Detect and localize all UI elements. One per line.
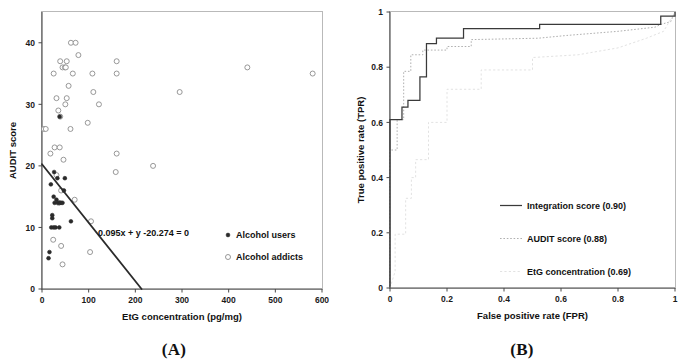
scatter-point-addict (64, 96, 69, 101)
scatter-point-addict (51, 237, 56, 242)
scatter-point-addict (113, 170, 118, 175)
scatter-point-user (57, 226, 61, 230)
scatter-point-user (56, 176, 60, 180)
scatter-point-addict (54, 96, 59, 101)
legend-marker-alcohol-users (226, 233, 230, 237)
scatter-point-addict (151, 163, 156, 168)
scatter-point-user (61, 201, 65, 205)
scatter-plot-audit-vs-etg: 0100200300400500600010203040 0.095x + y … (0, 0, 348, 330)
axis-lines (390, 12, 675, 288)
y-tick-label: 20 (26, 161, 36, 171)
legend-label: EtG concentration (0.69) (527, 267, 631, 277)
roc-curve-audit-score (390, 12, 675, 288)
panel-b: 00.20.40.60.8100.20.40.60.81 Integration… (348, 0, 696, 364)
x-tick-label: 0 (40, 295, 45, 305)
scatter-point-addict (60, 262, 65, 267)
scatter-point-addict (310, 71, 315, 76)
x-tick-label: 0.2 (441, 294, 453, 304)
scatter-point-addict (43, 126, 48, 131)
scatter-point-user (58, 115, 62, 119)
x-tick-label: 0.8 (612, 294, 624, 304)
scatter-point-addict (52, 145, 57, 150)
scatter-point-addict (58, 59, 63, 64)
scatter-point-addict (66, 83, 71, 88)
scatter-point-user (52, 195, 56, 199)
x-tick-label: 200 (128, 295, 142, 305)
roc-curve-plot: 00.20.40.60.8100.20.40.60.81 Integration… (348, 0, 696, 330)
scatter-point-user (50, 216, 54, 220)
x-axis-title: EtG concentration (pg/mg) (122, 311, 242, 322)
scatter-point-user (53, 201, 57, 205)
scatter-point-addict (63, 65, 68, 70)
panel-a-caption: (A) (0, 340, 348, 360)
x-tick-label: 0 (388, 294, 393, 304)
scatter-point-user (49, 182, 53, 186)
x-tick-label: 0.4 (498, 294, 510, 304)
scatter-point-addict (114, 59, 119, 64)
scatter-point-user (69, 219, 73, 223)
scatter-point-addict (68, 126, 73, 131)
legend-label: Alcohol users (236, 230, 296, 240)
x-axis-title: False positive rate (FPR) (477, 310, 588, 321)
roc-curve-etg-concentration (390, 12, 675, 288)
scatter-point-addict (90, 71, 95, 76)
y-tick-label: 40 (26, 38, 36, 48)
scatter-point-addict (96, 102, 101, 107)
tick-label-group: 00.20.40.60.8100.20.40.60.81 (371, 7, 677, 304)
x-tick-label: 400 (222, 295, 236, 305)
legend-marker-alcohol-addicts (226, 255, 231, 260)
roc-curves-group (390, 12, 675, 288)
scatter-point-addict (51, 71, 56, 76)
scatter-point-addict (70, 71, 75, 76)
scatter-point-addict (63, 102, 68, 107)
panel-b-caption: (B) (348, 340, 696, 360)
legend-panel-b: Integration score (0.90)AUDIT score (0.8… (500, 201, 631, 277)
legend-panel-a: Alcohol usersAlcohol addicts (226, 230, 304, 262)
scatter-point-addict (88, 250, 93, 255)
scatter-point-addict (72, 197, 77, 202)
axis-lines (42, 12, 322, 289)
x-tick-label: 600 (315, 295, 329, 305)
scatter-point-addict (48, 151, 53, 156)
scatter-point-addict (114, 71, 119, 76)
figure-container: 0100200300400500600010203040 0.095x + y … (0, 0, 696, 364)
legend-label: AUDIT score (0.88) (527, 234, 607, 244)
panel-a: 0100200300400500600010203040 0.095x + y … (0, 0, 348, 364)
plot-frame (390, 12, 676, 289)
x-tick-label: 300 (175, 295, 189, 305)
scatter-point-user (54, 226, 58, 230)
x-tick-label: 0.6 (555, 294, 567, 304)
x-tick-label: 1 (673, 294, 678, 304)
y-tick-label: 1 (378, 7, 383, 17)
y-tick-label: 10 (26, 223, 36, 233)
scatter-point-user (47, 256, 51, 260)
scatter-point-user (52, 170, 56, 174)
scatter-point-addict (56, 108, 61, 113)
y-axis-title: True positive rate (TPR) (355, 97, 366, 204)
x-tick-label: 100 (82, 295, 96, 305)
legend-label: Alcohol addicts (236, 252, 303, 262)
y-tick-label: 0 (30, 284, 35, 294)
y-tick-label: 0.2 (371, 228, 383, 238)
scatter-point-addict (85, 120, 90, 125)
scatter-point-user (48, 250, 52, 254)
y-tick-label: 0.8 (371, 62, 383, 72)
x-tick-label: 500 (268, 295, 282, 305)
scatter-point-addict (91, 90, 96, 95)
scatter-point-addict (73, 40, 78, 45)
y-tick-label: 30 (26, 100, 36, 110)
equation-annotation: 0.095x + y -20.274 = 0 (98, 228, 189, 238)
scatter-point-addict (61, 157, 66, 162)
scatter-point-addict (57, 145, 62, 150)
roc-curve-integration-score (390, 12, 675, 288)
y-tick-label: 0.4 (371, 173, 383, 183)
plot-frame (42, 12, 323, 290)
scatter-point-addict (76, 53, 81, 58)
scatter-point-addict (177, 90, 182, 95)
scatter-point-addict (64, 59, 69, 64)
scatter-point-user (63, 176, 67, 180)
tick-label-group: 0100200300400500600010203040 (26, 38, 330, 305)
y-tick-label: 0.6 (371, 118, 383, 128)
y-axis-title: AUDIT score (7, 122, 18, 179)
scatter-point-addict (114, 151, 119, 156)
